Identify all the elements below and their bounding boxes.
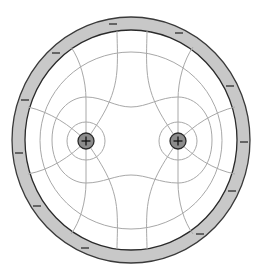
field-line <box>86 141 117 249</box>
conducting-ring <box>12 17 250 263</box>
field-line <box>86 31 117 141</box>
field-lines <box>28 31 235 249</box>
field-line <box>147 31 178 141</box>
equipotential-lines <box>40 52 222 229</box>
equipotential-peanut <box>52 97 212 183</box>
field-line <box>147 141 178 249</box>
positive-charge <box>78 133 94 149</box>
ring-band <box>12 17 250 263</box>
positive-charge <box>170 133 186 149</box>
electric-field-diagram <box>0 0 258 275</box>
positive-charges <box>78 133 186 149</box>
ring-inner-edge <box>25 30 237 250</box>
